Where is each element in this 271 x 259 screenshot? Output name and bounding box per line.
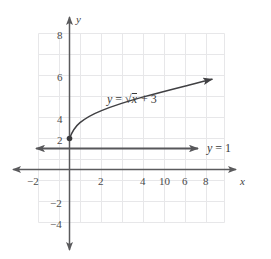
- x-axis-label: x: [240, 176, 245, 187]
- radical-sign: √: [125, 92, 132, 106]
- y-tick-label: −4: [50, 219, 62, 230]
- y-tick-label: −2: [50, 198, 62, 209]
- equation-y: y: [107, 92, 112, 106]
- grid-lines: [39, 34, 225, 223]
- y-tick-label: 6: [57, 72, 63, 83]
- horizontal-line-label: y=1: [207, 142, 231, 154]
- x-tick-label: 4: [140, 176, 146, 187]
- equation-radicand: x: [132, 92, 137, 106]
- y-tick-label: 8: [57, 30, 63, 41]
- radical-vinculum: [132, 93, 137, 94]
- x-tick-label: 10: [159, 176, 170, 187]
- equation-radical-group: √x: [125, 92, 137, 105]
- graph-figure: −2 2 4 6 8 10 8 6 4 2 −2 −4 y x y=√x+ 3 …: [0, 0, 271, 259]
- hline-y: y: [207, 141, 212, 155]
- x-tick-label: −2: [27, 176, 39, 187]
- x-tick-label: 2: [98, 176, 104, 187]
- x-tick-label: 6: [182, 176, 188, 187]
- y-tick-label: 4: [57, 114, 63, 125]
- coordinate-plane: [0, 0, 271, 259]
- hline-value: 1: [225, 141, 231, 155]
- curve-equation-label: y=√x+ 3: [107, 92, 157, 105]
- y-tick-label: 2: [57, 135, 63, 146]
- curve-endpoint-dot: [67, 136, 73, 142]
- x-tick-label: 8: [203, 176, 209, 187]
- hline-equals: =: [215, 141, 222, 155]
- y-axis-label: y: [76, 14, 81, 25]
- sqrt-curve: [67, 79, 212, 141]
- equation-equals: =: [115, 92, 122, 106]
- equation-tail: + 3: [141, 92, 157, 106]
